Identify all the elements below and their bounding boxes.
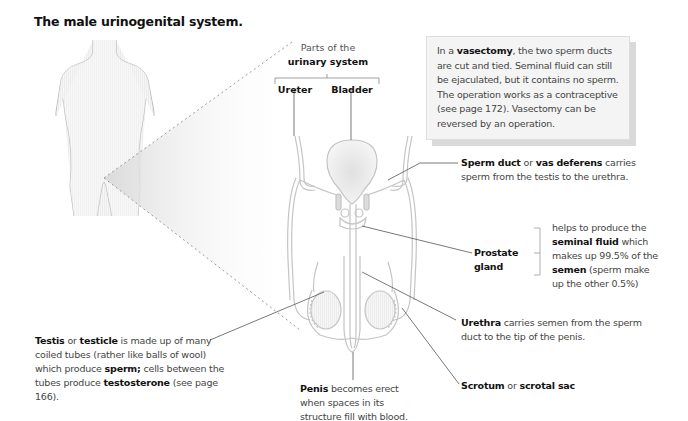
urinary-header-line2: urinary system: [280, 56, 376, 67]
page-title: The male urinogenital system.: [34, 14, 243, 29]
label-scrotum: Scrotum or scrotal sac: [461, 379, 661, 393]
label-prostate-gland: Prostate gland: [474, 246, 544, 274]
urinary-header-line1: Parts of the: [280, 42, 376, 53]
label-bladder: Bladder: [330, 84, 374, 95]
info-bold: vasectomy: [457, 45, 513, 56]
label-urethra: Urethra carries semen from the sperm duc…: [461, 316, 661, 344]
label-ureter: Ureter: [276, 84, 314, 95]
prostate-description: helps to produce the seminal fluid which…: [552, 221, 662, 291]
reproductive-organs: [288, 136, 417, 352]
info-post: , the two sperm ducts are cut and tied. …: [437, 45, 619, 129]
vasectomy-info-box: In a vasectomy, the two sperm ducts are …: [426, 36, 630, 140]
label-sperm-duct: Sperm duct or vas deferens carries sperm…: [461, 156, 661, 184]
label-penis: Penis becomes erect when spaces in its s…: [300, 382, 415, 421]
info-pre: In a: [437, 45, 457, 56]
label-testis: Testis or testicle is made up of many co…: [35, 334, 235, 404]
